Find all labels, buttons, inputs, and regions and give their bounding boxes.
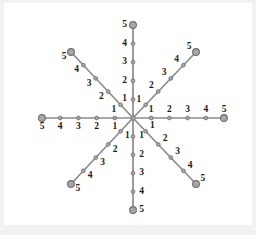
ray-tick-marker — [204, 116, 208, 120]
tick-label: 3 — [87, 79, 92, 89]
ray-tick-marker — [156, 143, 160, 147]
tick-label: 3 — [139, 168, 144, 178]
ray-tick-marker — [144, 103, 148, 107]
tick-label: 3 — [162, 68, 167, 78]
tick-label: 1 — [112, 122, 117, 132]
tick-label: 4 — [122, 39, 127, 49]
ray-tick-marker — [182, 63, 186, 67]
ray-endpoint-marker — [68, 49, 75, 56]
tick-label: 5 — [122, 20, 127, 30]
ray-tick-marker — [131, 60, 135, 64]
tick-label: 2 — [99, 92, 104, 102]
ray-tick-marker — [169, 77, 173, 81]
tick-label: 4 — [88, 171, 93, 181]
ray-tick-marker — [82, 169, 86, 173]
ray-tick-marker — [156, 90, 160, 94]
tick-label: 5 — [139, 205, 144, 215]
tick-label: 2 — [139, 150, 144, 160]
ray-tick-marker — [94, 156, 98, 160]
ray-tick-marker — [169, 156, 173, 160]
tick-label: 1 — [149, 105, 154, 115]
ray-endpoint-marker — [193, 181, 200, 188]
ray-tick-marker — [182, 169, 186, 173]
ray-tick-marker — [131, 98, 135, 102]
tick-label: 2 — [163, 134, 168, 144]
ray-endpoint-marker — [221, 115, 228, 122]
tick-label: 5 — [62, 53, 67, 63]
ray-tick-marker — [77, 116, 81, 120]
ray-tick-marker — [168, 116, 172, 120]
tick-label: 2 — [167, 105, 172, 115]
tick-label: 1 — [125, 132, 130, 142]
ray-tick-marker — [95, 116, 99, 120]
tick-label: 5 — [187, 42, 192, 52]
tick-label: 3 — [122, 57, 127, 67]
tick-label: 4 — [203, 105, 208, 115]
ray-tick-marker — [131, 79, 135, 83]
tick-label: 3 — [100, 158, 105, 168]
star-plot-svg — [0, 0, 256, 235]
tick-label: 2 — [122, 76, 127, 86]
tick-label: 5 — [75, 185, 80, 195]
ray-tick-marker — [131, 153, 135, 157]
tick-label: 4 — [74, 66, 79, 76]
ray-tick-marker — [58, 116, 62, 120]
ray-tick-marker — [131, 135, 135, 139]
ray-tick-marker — [144, 129, 148, 133]
figure-root: 1234512345123451234512345123451234512345 — [0, 0, 256, 235]
ray-tick-marker — [131, 171, 135, 175]
ray-tick-marker — [106, 143, 110, 147]
tick-label: 4 — [58, 122, 63, 132]
tick-label: 4 — [139, 187, 144, 197]
tick-label: 5 — [200, 174, 205, 184]
ray-tick-marker — [94, 77, 98, 81]
tick-label: 2 — [149, 82, 154, 92]
ray-tick-marker — [131, 190, 135, 194]
tick-label: 4 — [188, 161, 193, 171]
tick-label: 2 — [113, 145, 118, 155]
ray-endpoint-marker — [68, 181, 75, 188]
tick-label: 4 — [174, 55, 179, 65]
tick-label: 5 — [40, 122, 45, 132]
tick-label: 5 — [222, 105, 227, 115]
ray-tick-marker — [186, 116, 190, 120]
ray-tick-marker — [106, 90, 110, 94]
ray-tick-marker — [119, 129, 123, 133]
tick-label: 2 — [94, 122, 99, 132]
origin-marker — [131, 116, 135, 120]
ray-endpoint-marker — [130, 207, 137, 214]
tick-label: 1 — [122, 95, 127, 105]
ray-endpoint-marker — [193, 49, 200, 56]
ray-tick-marker — [113, 116, 117, 120]
tick-label: 1 — [150, 121, 155, 131]
tick-label: 1 — [136, 95, 141, 105]
ray-tick-marker — [82, 63, 86, 67]
tick-label: 3 — [185, 105, 190, 115]
ray-endpoint-marker — [130, 22, 137, 29]
tick-label: 1 — [111, 105, 116, 115]
ray-tick-marker — [131, 42, 135, 46]
tick-label: 1 — [139, 132, 144, 142]
tick-label: 3 — [175, 148, 180, 158]
tick-label: 3 — [76, 122, 81, 132]
